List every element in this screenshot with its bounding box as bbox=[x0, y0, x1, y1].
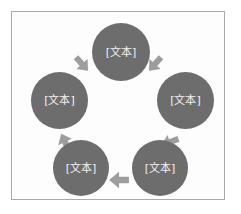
cycle-node-label: [文本] bbox=[66, 163, 97, 174]
cycle-node-right[interactable]: [文本] bbox=[157, 72, 214, 129]
cycle-node-label: [文本] bbox=[44, 95, 75, 106]
cycle-node-label: [文本] bbox=[145, 163, 176, 174]
cycle-node-bottom-left[interactable]: [文本] bbox=[53, 140, 109, 196]
cycle-node-label: [文本] bbox=[170, 95, 201, 106]
screenshot-canvas: [文本] [文本] [文本] [文本] [文本] bbox=[0, 0, 241, 214]
cycle-node-label: [文本] bbox=[106, 47, 137, 58]
cycle-node-top[interactable]: [文本] bbox=[92, 23, 150, 81]
arrow-bottom bbox=[107, 169, 131, 191]
chevron-arrow-icon bbox=[107, 169, 131, 191]
cycle-diagram[interactable]: [文本] [文本] [文本] [文本] [文本] bbox=[12, 12, 224, 199]
diagram-frame: [文本] [文本] [文本] [文本] [文本] bbox=[11, 11, 225, 200]
cycle-node-bottom-right[interactable]: [文本] bbox=[132, 140, 188, 196]
cycle-node-left[interactable]: [文本] bbox=[31, 72, 88, 129]
